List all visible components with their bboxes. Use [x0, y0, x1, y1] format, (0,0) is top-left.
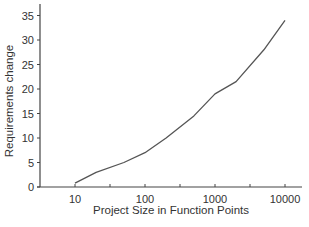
y-tick-label: 0: [28, 181, 34, 193]
y-tick-label: 15: [22, 108, 34, 120]
series-line: [75, 20, 285, 183]
y-tick-label: 20: [22, 83, 34, 95]
y-tick-label: 30: [22, 34, 34, 46]
y-tick-label: 25: [22, 59, 34, 71]
axes: [37, 4, 302, 187]
y-tick-label: 10: [22, 132, 34, 144]
x-tick-label: 10000: [270, 193, 301, 205]
line-chart: 0510152025303510100100010000 Project Siz…: [0, 0, 309, 227]
plot-area: [75, 20, 285, 183]
y-tick-label: 35: [22, 10, 34, 22]
y-tick-label: 5: [28, 157, 34, 169]
x-tick-label: 10: [69, 193, 81, 205]
axis-ticks: 0510152025303510100100010000: [22, 10, 301, 206]
x-axis-title: Project Size in Function Points: [93, 204, 249, 216]
y-axis-title: Requirements change: [3, 45, 15, 158]
